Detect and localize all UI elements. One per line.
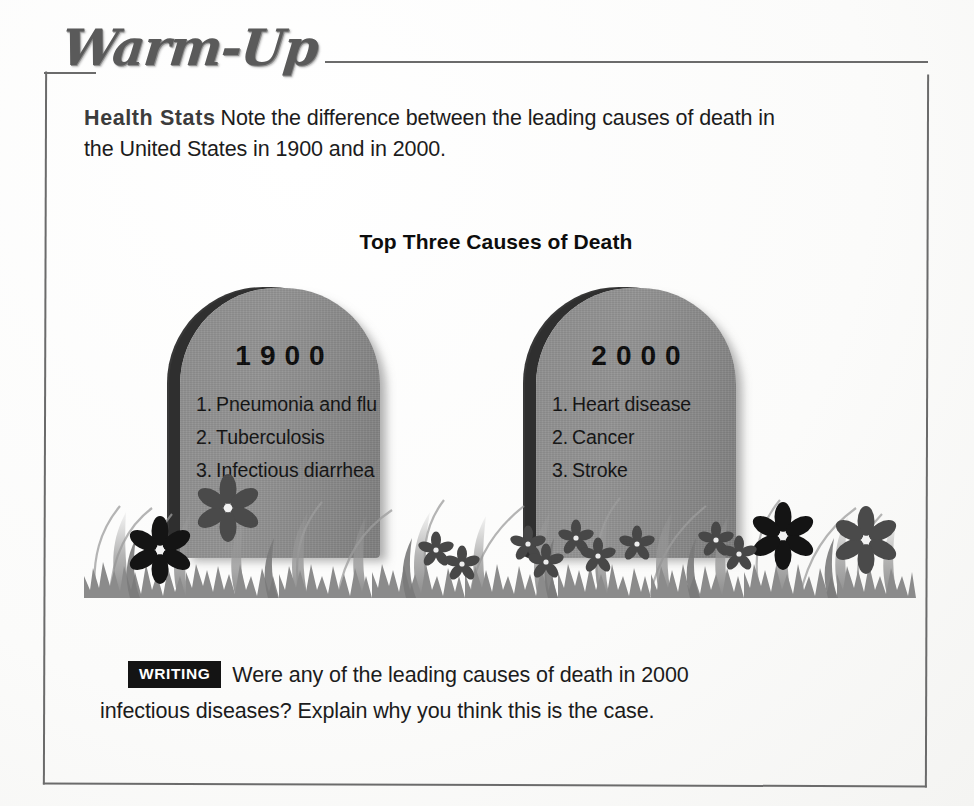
graphic-title: Top Three Causes of Death <box>0 230 974 254</box>
status-badge: WRITING <box>128 661 221 688</box>
list-item: 1.Pneumonia and flu <box>196 388 374 421</box>
list-item: 3.Infectious diarrhea <box>196 454 374 487</box>
tombstone-year-2000: 2000 <box>536 340 736 372</box>
cause-number: 1. <box>196 393 212 415</box>
list-item: 3.Stroke <box>552 454 730 487</box>
cause-number: 2. <box>196 426 212 448</box>
cause-label: Stroke <box>572 459 628 481</box>
intro-paragraph: Health StatsNote the difference between … <box>84 103 784 165</box>
grass-and-flowers-icon <box>0 472 974 606</box>
graphic-title-text: Top Three Causes of Death <box>360 230 633 253</box>
cause-label: Heart disease <box>572 393 691 415</box>
cause-label: Infectious diarrhea <box>216 459 375 481</box>
cause-list-2000: 1.Heart disease 2.Cancer 3.Stroke <box>552 388 730 487</box>
cause-number: 2. <box>552 426 568 448</box>
writing-prompt: WRITINGWere any of the leading causes of… <box>128 660 828 691</box>
tombstone-1900: 1900 1.Pneumonia and flu 2.Tuberculosis … <box>180 288 380 558</box>
cause-list-1900: 1.Pneumonia and flu 2.Tuberculosis 3.Inf… <box>196 388 374 487</box>
frame-top-right-rule <box>325 61 928 63</box>
list-item: 2.Cancer <box>552 421 730 454</box>
tombstone-year-1900: 1900 <box>180 340 380 372</box>
cause-label: Pneumonia and flu <box>216 393 377 415</box>
writing-line-2: infectious diseases? Explain why you thi… <box>100 696 655 727</box>
tombstone-scene: 1900 1.Pneumonia and flu 2.Tuberculosis … <box>0 276 974 606</box>
cause-label: Tuberculosis <box>216 426 325 448</box>
intro-label: Health Stats <box>84 106 215 130</box>
cause-label: Cancer <box>572 426 634 448</box>
cause-number: 3. <box>196 459 212 481</box>
cause-number: 1. <box>552 393 568 415</box>
list-item: 2.Tuberculosis <box>196 421 374 454</box>
list-item: 1.Heart disease <box>552 388 730 421</box>
cause-number: 3. <box>552 459 568 481</box>
writing-line-1: Were any of the leading causes of death … <box>232 663 688 687</box>
page-title: Warm-Up <box>59 18 321 77</box>
tombstone-2000: 2000 1.Heart disease 2.Cancer 3.Stroke <box>536 288 736 558</box>
